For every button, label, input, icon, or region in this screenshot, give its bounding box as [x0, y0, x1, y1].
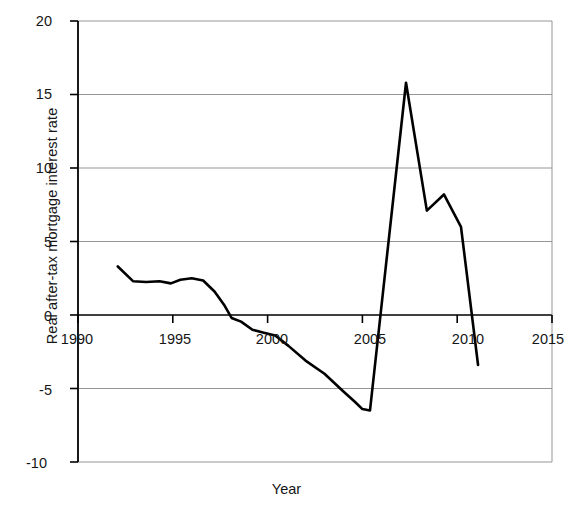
x-tick-label-2005: 2005 [338, 332, 402, 347]
x-tick-label-2000: 2000 [240, 332, 304, 347]
y-tick-label-neg5: -5 [8, 383, 52, 398]
y-tick-label-0: 0 [8, 309, 52, 324]
y-tick-label-5: 5 [8, 235, 52, 250]
x-axis-title: Year [0, 481, 573, 497]
chart-figure: Real after-tax mortgage interest rate Ye… [0, 0, 573, 507]
y-tick-label-20: 20 [8, 14, 52, 29]
x-tick-label-2010: 2010 [436, 332, 500, 347]
y-axis-title: Real after-tax mortgage interest rate [44, 76, 60, 376]
x-tick-label-1990: 1990 [45, 332, 109, 347]
y-tick-label-15: 15 [8, 87, 52, 102]
gridlines [78, 21, 552, 462]
x-tick-label-2015: 2015 [516, 332, 573, 347]
y-tick-label-neg10: -10 [3, 456, 47, 471]
data-line-series-0 [118, 83, 478, 411]
x-tick-label-1995: 1995 [143, 332, 207, 347]
plot-area [0, 0, 573, 507]
y-tick-label-10: 10 [8, 161, 52, 176]
